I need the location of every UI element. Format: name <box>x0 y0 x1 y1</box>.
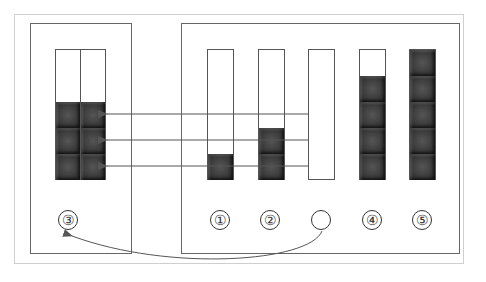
label-3: ③ <box>58 210 78 230</box>
straight-arrows <box>107 114 308 166</box>
label-1: ① <box>210 210 230 230</box>
arrows-overlay <box>0 0 486 282</box>
label-4: ④ <box>362 210 382 230</box>
label-empty <box>311 210 331 230</box>
curved-arrow <box>72 231 322 259</box>
label-2: ② <box>260 210 280 230</box>
label-5: ⑤ <box>412 210 432 230</box>
